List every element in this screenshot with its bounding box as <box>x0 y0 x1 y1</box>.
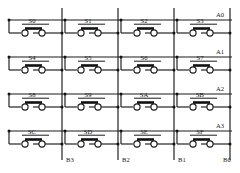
switch-label-s8: S8 <box>29 91 37 98</box>
sc-row-junction <box>8 130 11 133</box>
s6-row-junction <box>120 56 123 59</box>
s4-terminal-left <box>22 67 28 73</box>
se-terminal-right <box>151 141 157 147</box>
sd-row-junction <box>64 130 67 133</box>
junction-b3-a2 <box>61 106 64 109</box>
switch-matrix-diagram: S0 S1 <box>0 0 240 173</box>
s8-terminal-right <box>39 104 45 110</box>
s5-terminal-left <box>78 67 84 73</box>
s1-contact-bar <box>81 27 98 30</box>
junction-b1-a0 <box>173 32 176 35</box>
junction-b3-a0 <box>61 32 64 35</box>
s3-contact-bar <box>193 27 210 30</box>
sc-terminal-right <box>39 141 45 147</box>
s7-terminal-right <box>207 67 213 73</box>
s2-terminal-right <box>151 30 157 36</box>
junction-b2-a2 <box>117 106 120 109</box>
matrix-row-a3: SC SD <box>8 128 233 147</box>
switch-label-s2: S2 <box>141 17 148 24</box>
s9-terminal-left <box>78 104 84 110</box>
row-bus-label-a1: A1 <box>216 48 224 55</box>
s1-terminal-left <box>78 30 84 36</box>
s7-contact-bar <box>193 64 210 67</box>
switch-label-sa: SA <box>140 91 149 98</box>
s2-terminal-left <box>134 30 140 36</box>
s6-terminal-right <box>151 67 157 73</box>
switch-label-sd: SD <box>84 128 93 135</box>
s4-contact-bar <box>25 64 42 67</box>
junction-b0-a1 <box>229 69 232 72</box>
sb-contact-bar <box>193 101 210 104</box>
sc-contact-bar <box>25 138 42 141</box>
junction-b2-a0 <box>117 32 120 35</box>
junction-b3-a3 <box>61 143 64 146</box>
row-bus-label-a3: A3 <box>216 122 225 129</box>
sb-row-junction <box>176 93 179 96</box>
s3-terminal-right <box>207 30 213 36</box>
s5-terminal-right <box>95 67 101 73</box>
s5-row-junction <box>64 56 67 59</box>
switch-label-sf: SF <box>196 128 204 135</box>
switch-label-s6: S6 <box>141 54 149 61</box>
junction-b0-a2 <box>229 106 232 109</box>
s9-terminal-right <box>95 104 101 110</box>
column-bus-label-b1: B1 <box>178 156 186 163</box>
junction-b0-a0 <box>229 32 232 35</box>
junction-b2-a1 <box>117 69 120 72</box>
sf-terminal-left <box>190 141 196 147</box>
junction-b3-a1 <box>61 69 64 72</box>
s9-row-junction <box>64 93 67 96</box>
se-terminal-left <box>134 141 140 147</box>
s4-terminal-right <box>39 67 45 73</box>
s3-row-junction <box>176 19 179 22</box>
s2-contact-bar <box>137 27 154 30</box>
matrix-row-a0: S0 S1 <box>8 17 233 36</box>
junction-b2-a3 <box>117 143 120 146</box>
s6-terminal-left <box>134 67 140 73</box>
junction-b1-a3 <box>173 143 176 146</box>
sd-terminal-right <box>95 141 101 147</box>
s7-terminal-left <box>190 67 196 73</box>
s1-row-junction <box>64 19 67 22</box>
switch-label-se: SE <box>140 128 148 135</box>
matrix-row-a1: S4 S5 <box>8 54 233 73</box>
column-bus-label-b0: B0 <box>223 156 231 163</box>
column-bus-label-b2: B2 <box>122 156 130 163</box>
sa-row-junction <box>120 93 123 96</box>
sd-terminal-left <box>78 141 84 147</box>
s7-row-junction <box>176 56 179 59</box>
switch-label-s5: S5 <box>85 54 93 61</box>
junction-b1-a1 <box>173 69 176 72</box>
switch-label-sc: SC <box>28 128 37 135</box>
matrix-row-a2: S8 S9 <box>8 91 233 110</box>
switch-label-s1: S1 <box>85 17 92 24</box>
row-bus-label-a2: A2 <box>216 85 224 92</box>
sb-terminal-right <box>207 104 213 110</box>
switch-label-s7: S7 <box>197 54 205 61</box>
s0-terminal-left <box>22 30 28 36</box>
s0-contact-bar <box>25 27 42 30</box>
sf-contact-bar <box>193 138 210 141</box>
se-contact-bar <box>137 138 154 141</box>
s1-terminal-right <box>95 30 101 36</box>
switch-label-s4: S4 <box>29 54 37 61</box>
s2-row-junction <box>120 19 123 22</box>
junction-b0-a3 <box>229 143 232 146</box>
sf-row-junction <box>176 130 179 133</box>
schematic-canvas: S0 S1 <box>0 0 240 173</box>
s8-terminal-left <box>22 104 28 110</box>
sa-terminal-right <box>151 104 157 110</box>
s5-contact-bar <box>81 64 98 67</box>
s0-terminal-right <box>39 30 45 36</box>
switch-label-s3: S3 <box>197 17 205 24</box>
s8-contact-bar <box>25 101 42 104</box>
sc-terminal-left <box>22 141 28 147</box>
s9-contact-bar <box>81 101 98 104</box>
sa-terminal-left <box>134 104 140 110</box>
column-bus-lines <box>61 8 232 160</box>
s8-row-junction <box>8 93 11 96</box>
s4-row-junction <box>8 56 11 59</box>
sa-contact-bar <box>137 101 154 104</box>
switch-label-s9: S9 <box>85 91 93 98</box>
s0-row-junction <box>8 19 11 22</box>
